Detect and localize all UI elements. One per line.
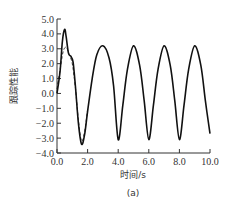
y-tick-label: 2.0 bbox=[42, 58, 55, 69]
x-axis-label: 时间/s bbox=[120, 169, 146, 180]
x-tick-label: 8.0 bbox=[173, 156, 186, 167]
x-tick-label: 6.0 bbox=[143, 156, 156, 167]
y-tick-label: 5.0 bbox=[42, 14, 55, 25]
chart-caption: (a) bbox=[127, 188, 140, 198]
actual-series-line bbox=[57, 29, 210, 144]
y-tick-label: 4.0 bbox=[42, 28, 55, 39]
x-tick-label: 2.0 bbox=[81, 156, 94, 167]
x-tick-label: 0.0 bbox=[51, 156, 64, 167]
y-tick-label: 3.0 bbox=[42, 43, 55, 54]
chart-canvas: 5.04.03.02.01.00.0−1.0−2.0−3.0−4.0 0.02.… bbox=[0, 0, 250, 206]
y-tick-label: −1.0 bbox=[36, 103, 54, 114]
x-tick-label: 10.0 bbox=[201, 156, 219, 167]
x-tick-label: 4.0 bbox=[112, 156, 125, 167]
y-tick-label: 1.0 bbox=[42, 73, 55, 84]
y-tick-label: −3.0 bbox=[36, 133, 54, 144]
y-tick-label: 0.0 bbox=[42, 88, 55, 99]
y-axis-label: 跟踪性能 bbox=[8, 68, 19, 104]
y-tick-label: −2.0 bbox=[36, 118, 54, 129]
x-axis-ticks: 0.02.04.06.08.010.0 bbox=[51, 149, 219, 167]
